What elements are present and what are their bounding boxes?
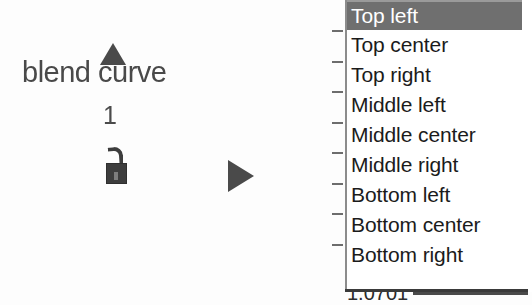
dropdown-item-middle-left[interactable]: Middle left xyxy=(347,90,532,120)
dropdown-item-middle-right[interactable]: Middle right xyxy=(347,150,532,180)
dropdown-item-bottom-left[interactable]: Bottom left xyxy=(347,180,532,210)
scale-tick xyxy=(332,152,343,154)
scale-tick xyxy=(332,213,343,215)
scale-tick xyxy=(332,244,343,246)
blend-curve-label: blend curve xyxy=(22,55,166,89)
dropdown-item-top-left[interactable]: Top left xyxy=(347,0,522,30)
scale-tick xyxy=(332,61,343,63)
scale-tick xyxy=(332,91,343,93)
scale-rail xyxy=(332,0,345,292)
dropdown-item-top-center[interactable]: Top center xyxy=(347,30,532,60)
clipped-numeric-field[interactable]: 1.0701 xyxy=(345,288,528,305)
scale-tick xyxy=(332,30,343,32)
dropdown-item-bottom-center[interactable]: Bottom center xyxy=(347,210,532,240)
scale-tick xyxy=(332,122,343,124)
alignment-dropdown-list[interactable]: Top leftTop centerTop rightMiddle leftMi… xyxy=(347,0,532,270)
blend-curve-control-group: blend curve 1 xyxy=(0,0,330,305)
scale-tick xyxy=(332,183,343,185)
field-underline xyxy=(345,289,528,292)
dropdown-item-bottom-right[interactable]: Bottom right xyxy=(347,240,532,270)
blend-curve-value: 1 xyxy=(103,101,117,129)
dropdown-item-middle-center[interactable]: Middle center xyxy=(347,120,532,150)
play-triangle-icon[interactable] xyxy=(228,160,254,192)
padlock-shackle xyxy=(107,146,123,164)
padlock-keyhole xyxy=(114,172,118,180)
screenshot-canvas: blend curve 1 Top leftTop centerTop righ… xyxy=(0,0,532,305)
dropdown-item-top-right[interactable]: Top right xyxy=(347,60,532,90)
open-padlock-icon[interactable] xyxy=(101,144,133,186)
alignment-dropdown-panel[interactable]: Top leftTop centerTop rightMiddle leftMi… xyxy=(345,0,532,292)
